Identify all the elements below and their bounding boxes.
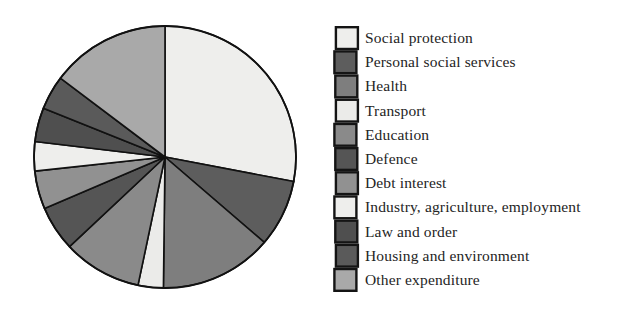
- legend-label-column: Social protectionPersonal social service…: [365, 26, 629, 292]
- pie-slice[interactable]: [165, 26, 296, 182]
- legend-item[interactable]: Debt interest: [365, 171, 629, 195]
- legend-swatch[interactable]: [336, 172, 358, 194]
- legend: Social protectionPersonal social service…: [329, 26, 629, 292]
- legend-item-label: Industry, agriculture, employment: [365, 198, 581, 215]
- legend-swatch[interactable]: [336, 245, 358, 267]
- legend-item-label: Law and order: [365, 223, 457, 240]
- legend-swatch[interactable]: [336, 27, 358, 49]
- legend-swatch[interactable]: [336, 100, 358, 122]
- pie-chart-figure: Social protectionPersonal social service…: [0, 0, 634, 313]
- legend-item-label: Debt interest: [365, 174, 447, 191]
- legend-item[interactable]: Health: [365, 74, 629, 98]
- legend-item-label: Personal social services: [365, 53, 516, 70]
- legend-swatch[interactable]: [335, 148, 357, 170]
- legend-swatch[interactable]: [334, 196, 356, 218]
- legend-item-label: Housing and environment: [365, 247, 529, 264]
- legend-swatch[interactable]: [335, 76, 357, 98]
- pie-chart-area: [22, 12, 308, 302]
- legend-item[interactable]: Social protection: [365, 26, 629, 50]
- legend-item[interactable]: Transport: [365, 99, 629, 123]
- legend-item-label: Social protection: [365, 29, 473, 46]
- legend-swatch[interactable]: [334, 51, 356, 73]
- legend-item[interactable]: Law and order: [365, 220, 629, 244]
- legend-item[interactable]: Industry, agriculture, employment: [365, 195, 629, 219]
- legend-item[interactable]: Education: [365, 123, 629, 147]
- legend-item[interactable]: Personal social services: [365, 50, 629, 74]
- legend-item-label: Education: [365, 126, 429, 143]
- legend-item-label: Transport: [365, 102, 426, 119]
- legend-swatch[interactable]: [334, 269, 356, 291]
- pie-slice-group: [34, 26, 296, 288]
- legend-item[interactable]: Other expenditure: [365, 268, 629, 292]
- legend-swatch[interactable]: [334, 124, 356, 146]
- legend-item-label: Other expenditure: [365, 271, 480, 288]
- legend-swatch[interactable]: [335, 221, 357, 243]
- legend-item[interactable]: Housing and environment: [365, 244, 629, 268]
- legend-swatch-column: [329, 26, 363, 292]
- legend-item[interactable]: Defence: [365, 147, 629, 171]
- legend-item-label: Defence: [365, 150, 418, 167]
- pie-chart-svg: [22, 12, 308, 302]
- legend-item-label: Health: [365, 77, 407, 94]
